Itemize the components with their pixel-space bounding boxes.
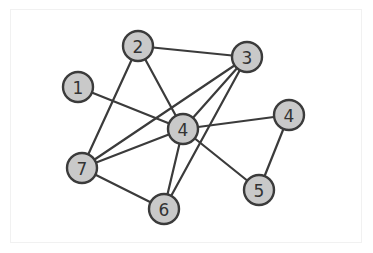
node-n6: 6 <box>149 194 179 224</box>
node-label: 4 <box>178 120 189 140</box>
node-n5: 5 <box>244 175 274 205</box>
node-n4c: 4 <box>168 114 198 144</box>
nodes-group: 12344567 <box>63 31 304 224</box>
node-n7: 7 <box>67 153 97 183</box>
node-n2: 2 <box>123 31 153 61</box>
node-label: 5 <box>254 181 265 201</box>
edge-n2-n3 <box>138 46 247 57</box>
node-label: 1 <box>73 78 84 98</box>
node-n4r: 4 <box>274 100 304 130</box>
node-n3: 3 <box>232 42 262 72</box>
node-label: 2 <box>133 37 144 57</box>
node-label: 3 <box>242 48 253 68</box>
edge-n1-n4c <box>78 87 183 129</box>
node-label: 7 <box>77 159 88 179</box>
node-label: 6 <box>159 200 170 220</box>
node-n1: 1 <box>63 72 93 102</box>
graph-diagram: 12344567 <box>0 0 373 253</box>
node-label: 4 <box>284 106 295 126</box>
